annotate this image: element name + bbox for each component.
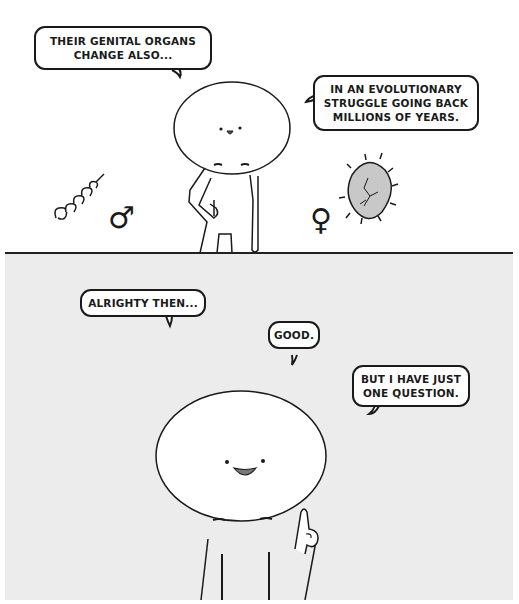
speech-bubble: GOOD.: [268, 321, 320, 349]
bubble-tail: [369, 406, 379, 414]
speech-bubble-text: ALRIGHTY THEN...: [88, 296, 198, 310]
bubble-tail: [166, 316, 172, 326]
speech-bubble-text: THEIR GENITAL ORGANS CHANGE ALSO...: [50, 34, 196, 62]
character-pointing: [156, 391, 326, 600]
speech-bubble: IN AN EVOLUTIONARY STRUGGLE GOING BACK M…: [313, 75, 479, 131]
female-symbol-icon: ♀: [310, 202, 332, 237]
character-standing: [174, 82, 290, 253]
speech-bubble-text: BUT I HAVE JUST ONE QUESTION.: [361, 372, 461, 400]
speech-bubble: THEIR GENITAL ORGANS CHANGE ALSO...: [34, 26, 212, 70]
speech-bubble-text: IN AN EVOLUTIONARY STRUGGLE GOING BACK M…: [324, 82, 468, 124]
male-symbol-icon: ♂: [108, 200, 135, 235]
top-panel: ♂ ♀ THEIR GENITAL ORGANS CHANGE ALSO... …: [0, 0, 519, 253]
speech-bubble: ALRIGHTY THEN...: [80, 289, 206, 317]
sperm-spiral-drawing: [55, 174, 104, 219]
speech-bubble: BUT I HAVE JUST ONE QUESTION.: [352, 365, 470, 407]
bubble-tail: [292, 355, 297, 365]
bottom-panel: ALRIGHTY THEN... GOOD. BUT I HAVE JUST O…: [5, 254, 513, 600]
speech-bubble-text: GOOD.: [274, 328, 314, 342]
egg-cell-drawing: [339, 153, 398, 224]
